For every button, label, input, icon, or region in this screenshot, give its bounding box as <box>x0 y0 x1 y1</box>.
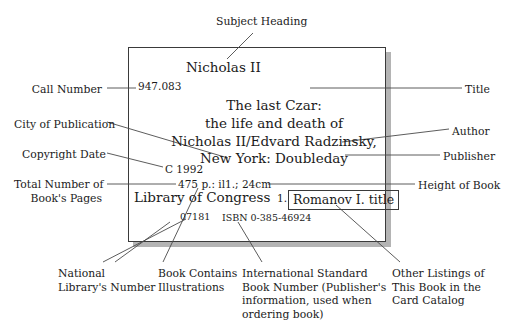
label-author: Author <box>452 125 490 139</box>
card-isbn: ISBN 0-385-46924 <box>222 213 311 224</box>
label-city-of-publication: City of Publication <box>14 118 102 132</box>
card-library-of-congress: Library of Congress <box>134 190 270 205</box>
card-subject-heading: Nicholas II <box>186 60 261 75</box>
card-national-library-number: 07181 <box>180 212 210 223</box>
label-copyright-date: Copyright Date <box>22 148 102 162</box>
card-tracing-number: 1. <box>277 193 287 205</box>
label-other-listings: Other Listings of This Book in the Card … <box>392 267 484 308</box>
card-copyright-date: C 1992 <box>165 164 203 176</box>
card-title-statement: The last Czar: the life and death of Nic… <box>170 97 378 168</box>
label-publisher: Publisher <box>443 150 495 164</box>
diagram-canvas: Nicholas II 947.083 The last Czar: the l… <box>0 0 512 330</box>
label-book-contains-illustrations: Book Contains Illustrations <box>158 267 237 294</box>
label-national-library-number: National Library's Number <box>58 267 155 294</box>
label-title: Title <box>465 83 490 97</box>
label-total-pages: Total Number of Book's Pages <box>14 178 102 205</box>
label-subject-heading: Subject Heading <box>216 15 307 29</box>
label-isbn: International Standard Book Number (Publ… <box>242 267 386 321</box>
card-tracing-entry: Romanov I. title <box>288 190 399 210</box>
label-call-number: Call Number <box>24 83 102 97</box>
card-call-number: 947.083 <box>138 81 181 93</box>
label-height-of-book: Height of Book <box>418 179 500 193</box>
